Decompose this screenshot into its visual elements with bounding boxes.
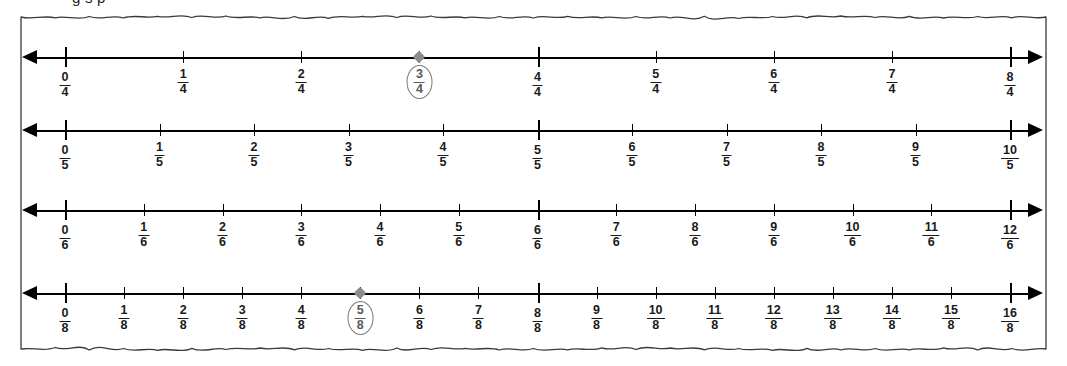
fraction-numerator: 11 — [706, 304, 723, 317]
fraction-label-fourths-7: 74 — [886, 68, 897, 96]
fraction-label-eighths-15: 158 — [942, 304, 960, 332]
fraction-denominator: 8 — [178, 319, 189, 332]
arrow-right-icon — [1028, 286, 1043, 300]
fraction-denominator: 8 — [1001, 322, 1019, 335]
fraction-denominator: 8 — [591, 319, 602, 332]
tick-fifths-2 — [254, 124, 255, 136]
tick-fifths-4 — [443, 124, 444, 136]
fraction-numerator: 4 — [438, 141, 449, 154]
fraction-denominator: 6 — [453, 236, 464, 249]
arrow-left-icon — [22, 123, 37, 137]
arrow-left-icon — [22, 203, 37, 217]
tick-sixths-9 — [774, 204, 775, 216]
fraction-label-eighths-4: 48 — [296, 304, 307, 332]
fraction-label-eighths-10: 108 — [647, 304, 665, 332]
number-line-fourths: 041424344454647484 — [0, 57, 1067, 58]
fraction-label-eighths-5: 58 — [355, 304, 366, 332]
fraction-numerator: 0 — [60, 224, 71, 237]
tick-eighths-3 — [242, 287, 243, 299]
axis-fifths — [37, 130, 1028, 132]
tick-sixths-4 — [380, 204, 381, 216]
fraction-numerator: 8 — [690, 221, 701, 234]
fraction-denominator: 8 — [355, 319, 366, 332]
fraction-numerator: 6 — [627, 141, 638, 154]
tick-eighths-10 — [656, 287, 657, 299]
tick-fifths-7 — [727, 124, 728, 136]
fraction-denominator: 6 — [296, 236, 307, 249]
fraction-numerator: 4 — [532, 71, 543, 84]
fraction-numerator: 1 — [138, 221, 149, 234]
tick-fourths-2 — [301, 51, 302, 63]
tick-sixths-6 — [538, 200, 540, 220]
fraction-numerator: 6 — [532, 224, 543, 237]
fraction-label-eighths-13: 138 — [824, 304, 842, 332]
number-line-sixths: 06162636465666768696106116126 — [0, 210, 1067, 211]
tick-sixths-10 — [853, 204, 854, 216]
tick-eighths-6 — [419, 287, 420, 299]
fraction-label-fifths-1: 15 — [154, 141, 165, 169]
fraction-denominator: 5 — [438, 156, 449, 169]
fraction-label-sixths-4: 46 — [375, 221, 386, 249]
fraction-label-fifths-7: 75 — [721, 141, 732, 169]
fraction-numerator: 15 — [942, 304, 960, 317]
fraction-numerator: 0 — [60, 144, 71, 157]
fraction-numerator: 10 — [1001, 144, 1019, 157]
tick-sixths-5 — [459, 204, 460, 216]
fraction-label-fifths-10: 105 — [1001, 144, 1019, 172]
fraction-label-fourths-0: 04 — [60, 71, 71, 99]
fraction-denominator: 5 — [60, 159, 71, 172]
fraction-label-fourths-2: 24 — [296, 68, 307, 96]
fraction-numerator: 6 — [414, 304, 425, 317]
fraction-denominator: 4 — [768, 83, 779, 96]
fraction-denominator: 4 — [296, 83, 307, 96]
fraction-label-fourths-8: 84 — [1005, 71, 1016, 99]
fraction-numerator: 12 — [765, 304, 783, 317]
fraction-label-eighths-9: 98 — [591, 304, 602, 332]
fraction-label-fifths-2: 25 — [249, 141, 260, 169]
fraction-denominator: 8 — [883, 319, 901, 332]
tick-eighths-7 — [478, 287, 479, 299]
axis-eighths — [37, 293, 1028, 295]
fraction-denominator: 5 — [249, 156, 260, 169]
fraction-denominator: 8 — [647, 319, 665, 332]
arrow-right-icon — [1028, 203, 1043, 217]
fraction-label-sixths-10: 106 — [844, 221, 862, 249]
fraction-numerator: 8 — [1005, 71, 1016, 84]
fraction-label-fifths-5: 55 — [532, 144, 543, 172]
tick-eighths-12 — [774, 287, 775, 299]
fraction-label-fourths-1: 14 — [178, 68, 189, 96]
tick-eighths-1 — [124, 287, 125, 299]
fraction-label-eighths-1: 18 — [119, 304, 130, 332]
tick-fourths-1 — [183, 51, 184, 63]
worksheet-canvas: g s p 0414243444546474840515253545556575… — [0, 0, 1067, 366]
fraction-numerator: 5 — [532, 144, 543, 157]
fraction-label-sixths-12: 126 — [1001, 224, 1019, 252]
fraction-numerator: 2 — [296, 68, 307, 81]
tick-sixths-2 — [223, 204, 224, 216]
fraction-numerator: 4 — [375, 221, 386, 234]
axis-fourths — [37, 57, 1028, 59]
fraction-label-eighths-8: 88 — [532, 307, 543, 335]
fraction-label-sixths-5: 56 — [453, 221, 464, 249]
fraction-numerator: 6 — [768, 68, 779, 81]
fraction-numerator: 11 — [923, 221, 940, 234]
tick-fourths-7 — [892, 51, 893, 63]
fraction-denominator: 5 — [1001, 159, 1019, 172]
fraction-numerator: 14 — [883, 304, 901, 317]
arrow-left-icon — [22, 50, 37, 64]
fraction-label-fifths-9: 95 — [910, 141, 921, 169]
fraction-label-eighths-2: 28 — [178, 304, 189, 332]
tick-sixths-12 — [1010, 200, 1012, 220]
fraction-label-sixths-3: 36 — [296, 221, 307, 249]
fraction-label-sixths-8: 86 — [690, 221, 701, 249]
fraction-numerator: 8 — [532, 307, 543, 320]
fraction-label-eighths-3: 38 — [237, 304, 248, 332]
fraction-numerator: 7 — [473, 304, 484, 317]
fraction-denominator: 6 — [1001, 239, 1019, 252]
fraction-numerator: 5 — [355, 304, 366, 317]
fraction-denominator: 4 — [178, 83, 189, 96]
tick-fourths-6 — [774, 51, 775, 63]
fraction-label-fourths-3: 34 — [414, 68, 425, 96]
fraction-denominator: 5 — [154, 156, 165, 169]
tick-eighths-15 — [951, 287, 952, 299]
